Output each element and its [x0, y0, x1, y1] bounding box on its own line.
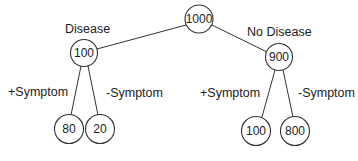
node-root-value: 1000	[186, 12, 213, 26]
label-disease: Disease	[65, 23, 110, 36]
edge-nodisease-pos	[262, 70, 275, 117]
node-disease-pos: 80	[55, 115, 84, 144]
label-disease-neg: -Symptom	[106, 87, 163, 100]
edge-disease-neg	[88, 66, 98, 115]
node-disease-pos-value: 80	[62, 122, 76, 136]
node-no-disease-value: 900	[269, 50, 289, 64]
label-nodisease-neg: -Symptom	[298, 87, 355, 100]
node-disease-neg: 20	[86, 115, 115, 144]
edge-root-disease	[97, 25, 186, 49]
node-nodisease-pos: 100	[242, 117, 271, 146]
edge-disease-pos	[71, 66, 81, 115]
label-nodisease-pos: +Symptom	[200, 87, 260, 100]
node-no-disease: 900	[266, 44, 293, 71]
edge-nodisease-neg	[283, 70, 293, 117]
node-disease: 100	[71, 40, 98, 67]
node-root: 1000	[185, 5, 213, 33]
node-disease-value: 100	[74, 46, 94, 60]
node-nodisease-pos-value: 100	[246, 124, 266, 138]
label-no-disease: No Disease	[247, 26, 312, 39]
node-nodisease-neg: 800	[281, 117, 310, 146]
label-disease-pos: +Symptom	[8, 86, 68, 99]
node-disease-neg-value: 20	[93, 122, 107, 136]
node-nodisease-neg-value: 800	[285, 124, 305, 138]
